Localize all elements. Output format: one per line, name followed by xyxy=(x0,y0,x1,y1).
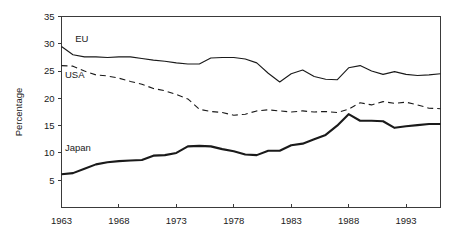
y-tick-label: 35 xyxy=(44,11,55,22)
series-lines xyxy=(62,47,441,175)
y-axis-ticks: 5101520253035 xyxy=(44,11,62,186)
series-line-japan xyxy=(62,114,441,174)
series-labels: EUUSAJapan xyxy=(65,33,91,154)
y-tick-label: 5 xyxy=(49,175,54,186)
y-tick-label: 30 xyxy=(44,38,55,49)
plot-border xyxy=(62,17,441,208)
x-tick-label: 1973 xyxy=(166,215,187,226)
x-tick-label: 1968 xyxy=(108,215,129,226)
series-label-eu: EU xyxy=(75,33,88,44)
plot-frame xyxy=(62,17,441,208)
chart-container: 5101520253035 19631968197319781983198819… xyxy=(0,0,461,237)
y-axis-title: Percentage xyxy=(13,88,24,137)
series-label-japan: Japan xyxy=(65,142,91,153)
y-tick-label: 15 xyxy=(44,120,55,131)
x-tick-label: 1988 xyxy=(338,215,359,226)
y-tick-label: 20 xyxy=(44,93,55,104)
line-chart: 5101520253035 19631968197319781983198819… xyxy=(0,0,461,237)
x-tick-label: 1983 xyxy=(281,215,302,226)
y-tick-label: 25 xyxy=(44,65,55,76)
series-line-usa xyxy=(62,66,441,116)
x-axis-ticks: 1963196819731978198319881993 xyxy=(51,204,417,226)
x-tick-label: 1963 xyxy=(51,215,72,226)
x-tick-label: 1993 xyxy=(395,215,416,226)
series-line-eu xyxy=(62,47,441,82)
y-tick-label: 10 xyxy=(44,147,55,158)
series-label-usa: USA xyxy=(65,69,85,80)
x-tick-label: 1978 xyxy=(223,215,244,226)
